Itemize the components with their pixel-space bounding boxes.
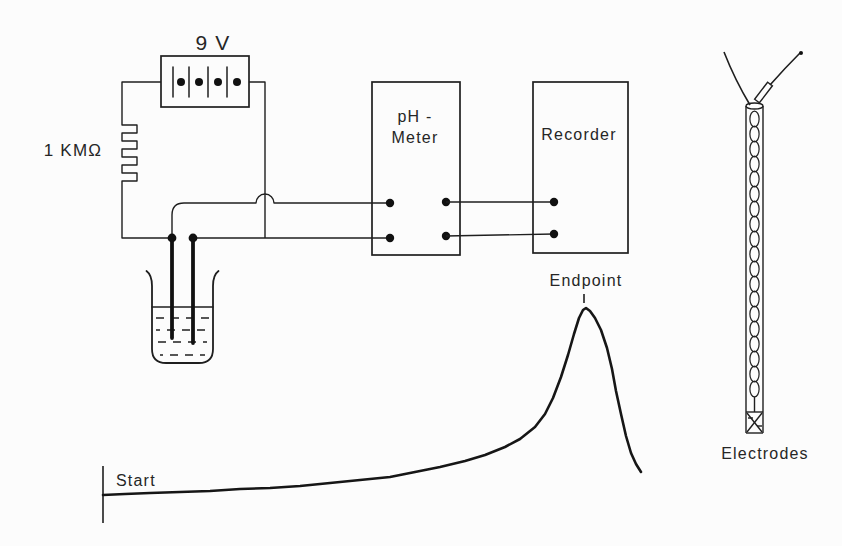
endpoint-label: Endpoint <box>550 272 623 289</box>
ph-meter-label-line2: Meter <box>392 129 439 146</box>
recorder: Recorder <box>533 82 628 253</box>
twisted-wire-chain <box>750 111 759 397</box>
battery-cell-dot <box>233 78 241 86</box>
wire-link <box>750 126 759 142</box>
wire-link <box>750 351 759 367</box>
wire-link <box>750 366 759 382</box>
battery: 9 V <box>161 31 249 107</box>
wire-link <box>750 156 759 172</box>
wire-link <box>750 201 759 217</box>
battery-right-wire <box>249 82 265 238</box>
ph-meter: pH - Meter <box>372 82 460 255</box>
wire-link <box>750 141 759 157</box>
lead-wire-right-tip <box>799 51 803 55</box>
resistor-value-label: 1 KMΩ <box>44 141 102 160</box>
resistor-branch: 1 KMΩ <box>44 82 172 238</box>
ph-meter-input-terminal <box>386 199 394 207</box>
beaker <box>147 234 219 363</box>
wire-link <box>750 171 759 187</box>
upper-signal-wire-with-hop <box>172 194 390 238</box>
wire-link <box>750 186 759 202</box>
electrode-assembly: Electrodes <box>721 51 809 462</box>
lead-wire-right <box>770 53 800 85</box>
recorder-label: Recorder <box>541 126 616 143</box>
titration-trace: Start Endpoint <box>103 272 641 523</box>
battery-cell-dot <box>214 78 222 86</box>
recorder-input-terminal <box>550 198 558 206</box>
electrode-tip-hatch <box>746 412 763 433</box>
wire-link <box>750 306 759 322</box>
wire-link <box>750 291 759 307</box>
recorder-outline <box>533 82 628 253</box>
diagram-svg: 9 V 1 KMΩ pH - Meter <box>0 0 842 546</box>
lead-wire-left <box>724 52 750 105</box>
battery-voltage-label: 9 V <box>195 31 230 54</box>
electrode-junction-dot <box>168 234 177 243</box>
wire-link <box>750 321 759 337</box>
electrodes-label: Electrodes <box>721 445 809 462</box>
beaker-outline <box>147 271 219 363</box>
wire-link <box>750 276 759 292</box>
ph-meter-label-line1: pH - <box>397 108 432 125</box>
left-circuit-wire-with-resistor <box>122 82 172 238</box>
figure-canvas: 9 V 1 KMΩ pH - Meter <box>0 0 842 546</box>
battery-cell-dot <box>177 78 185 86</box>
wire-link <box>750 216 759 232</box>
recorder-input-terminal <box>550 230 558 238</box>
start-label: Start <box>116 472 156 489</box>
ph-meter-input-terminal <box>386 234 394 242</box>
battery-cell-dot <box>195 78 203 86</box>
recorder-trace-curve <box>103 308 641 495</box>
wire-link <box>750 246 759 262</box>
wire-link <box>750 336 759 352</box>
wire-link <box>750 381 759 397</box>
lead-sleeve <box>755 82 773 103</box>
electrode-junction-dot <box>189 234 198 243</box>
meter-to-recorder-wire-bottom <box>446 234 554 236</box>
wire-link <box>750 231 759 247</box>
wire-link <box>750 261 759 277</box>
wire-link <box>750 111 759 127</box>
